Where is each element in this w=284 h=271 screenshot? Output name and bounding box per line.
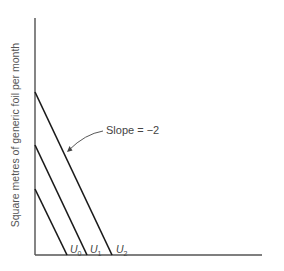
line-u2: [35, 92, 112, 255]
label-u0-sub: 0: [78, 250, 82, 257]
label-u0-main: U: [70, 243, 78, 255]
line-u0: [35, 189, 67, 255]
label-u2: U2: [116, 243, 128, 257]
label-u1-main: U: [90, 243, 98, 255]
label-u2-sub: 2: [124, 250, 128, 257]
line-u1: [35, 145, 87, 255]
y-axis-label: Square metres of generic foil per month: [9, 35, 23, 235]
label-u2-main: U: [116, 243, 124, 255]
label-u1: U1: [90, 243, 102, 257]
label-u0: U0: [70, 243, 82, 257]
slope-annotation: Slope = −2: [106, 124, 159, 136]
label-u1-sub: 1: [98, 250, 102, 257]
annotation-arrow: [69, 131, 103, 150]
